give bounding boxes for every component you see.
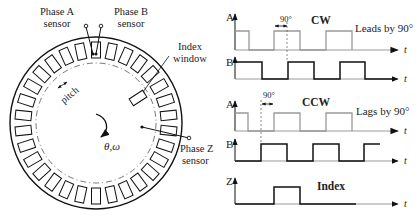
- rotation-arrow-icon: [96, 114, 107, 137]
- pitch-label: pitch: [58, 84, 80, 105]
- disk-slot: [24, 79, 42, 95]
- cw-title: CW: [311, 14, 331, 26]
- disk-slot: [15, 110, 32, 121]
- disk-slot: [92, 42, 101, 58]
- encoder-disk: [10, 37, 182, 209]
- disk-slot: [150, 152, 168, 168]
- phase-z-label-2: sensor: [182, 155, 209, 166]
- disk-slot: [75, 186, 87, 204]
- disk-slot: [105, 186, 117, 204]
- disk-slot: [92, 188, 101, 204]
- disk-slots: [15, 42, 177, 204]
- disk-slot: [131, 173, 148, 191]
- disk-slot: [156, 139, 174, 153]
- disk-slot: [160, 110, 177, 121]
- disk-slot: [33, 163, 51, 180]
- disk-slot: [33, 66, 51, 83]
- disk-slot: [75, 43, 87, 61]
- disk-slot: [45, 173, 62, 191]
- disk-slot: [59, 181, 74, 199]
- index-timing: Z Index t: [226, 175, 407, 209]
- disk-slot: [141, 66, 159, 83]
- phase-b-label-2: sensor: [118, 18, 145, 29]
- disk-slot: [45, 55, 62, 73]
- cw-signal-a: [235, 31, 352, 50]
- cw-axis-t: t: [404, 44, 407, 55]
- ccw-b-label: B: [226, 138, 233, 150]
- ccw-angle-label: 90°: [263, 90, 275, 100]
- disk-slot: [150, 79, 168, 95]
- cw-note: Leads by 90°: [355, 22, 413, 34]
- disk-slot: [118, 181, 133, 199]
- disk-slot: [18, 94, 36, 108]
- cw-axis-t-b: t: [404, 73, 407, 84]
- pitch-arrow: [58, 82, 67, 88]
- sensor-track-dashed: [36, 63, 156, 183]
- ccw-note: Lags by 90°: [356, 105, 409, 117]
- ccw-a-label: A: [226, 98, 234, 110]
- disk-slot: [131, 55, 148, 73]
- index-window-label: Index: [178, 41, 203, 52]
- disk-slot: [24, 152, 42, 168]
- index-window-label-2: window: [173, 53, 207, 64]
- ccw-axis-t: t: [404, 125, 407, 136]
- phase-a-label: Phase A: [40, 6, 75, 17]
- disk-slot: [15, 125, 32, 136]
- ccw-timing: A t 90° CCW Lags by 90° B t: [226, 90, 409, 166]
- cw-a-label: A: [226, 11, 234, 23]
- index-window: [129, 90, 147, 105]
- encoder-diagram: Phase A sensor Phase B sensor Index wind…: [0, 0, 420, 223]
- cw-timing: A t 90° CW Leads by 90° B t: [226, 11, 413, 84]
- disk-slot: [105, 43, 117, 61]
- index-title: Index: [317, 180, 345, 192]
- disk-slot: [59, 47, 74, 65]
- ccw-signal-b: [235, 144, 380, 161]
- ccw-axis-t-b: t: [404, 155, 407, 166]
- ccw-title: CCW: [302, 96, 331, 108]
- phase-b-label: Phase B: [114, 6, 148, 17]
- phase-a-label-2: sensor: [44, 18, 71, 29]
- rotation-label: θ,ω: [104, 140, 120, 152]
- index-z-label: Z: [226, 175, 233, 187]
- cw-signal-b: [235, 62, 392, 79]
- disk-slot: [141, 163, 159, 180]
- ccw-signal-a: [235, 113, 352, 131]
- cw-b-label: B: [226, 56, 233, 68]
- disk-slot: [156, 94, 174, 108]
- cw-angle-label: 90°: [280, 14, 292, 24]
- phase-z-label: Phase Z: [180, 143, 214, 154]
- disk-slot: [18, 139, 36, 153]
- disk-slot: [118, 47, 133, 65]
- index-axis-t: t: [404, 198, 407, 209]
